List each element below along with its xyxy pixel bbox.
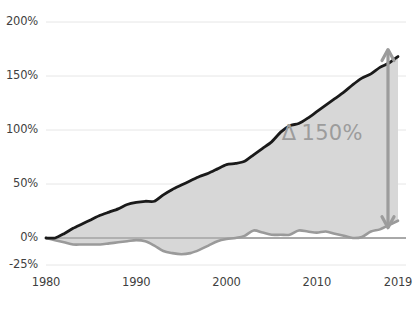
delta-annotation: Δ150%: [282, 123, 363, 144]
y-tick-label-0: 0%: [20, 232, 38, 244]
y-tick-label-150: 150%: [6, 70, 38, 82]
y-tick-label-200: 200%: [6, 16, 38, 28]
y-tick-label-50: 50%: [13, 178, 38, 190]
between-series-fill: [46, 57, 398, 255]
x-tick-label-2000: 2000: [202, 277, 252, 289]
chart-container: 200%150%100%50%0%-25% 198019902000201020…: [0, 0, 414, 310]
y-tick-label--25: -25%: [9, 259, 38, 271]
x-tick-label-1990: 1990: [111, 277, 161, 289]
y-tick-label-100: 100%: [6, 124, 38, 136]
delta-symbol-icon: Δ: [282, 121, 297, 145]
x-tick-label-2019: 2019: [373, 277, 414, 289]
area-fill: [46, 57, 398, 255]
delta-value-label: 150%: [302, 121, 363, 145]
chart-plot-area: [0, 0, 414, 310]
x-tick-label-2010: 2010: [292, 277, 342, 289]
x-tick-label-1980: 1980: [21, 277, 71, 289]
